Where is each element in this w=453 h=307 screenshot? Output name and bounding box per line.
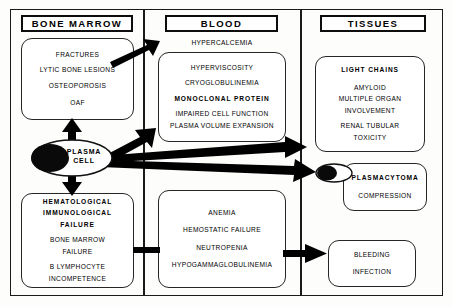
hemato-line-bm: BONE MARROW — [50, 236, 105, 245]
hematological-failure-box: HEMATOLOGICAL IMMUNOLOGICAL FAILURE BONE… — [21, 193, 134, 288]
blood-protein-effects-box: HYPERVISCOSITY CRYOGLOBULINEMIA MONOCLON… — [158, 52, 286, 142]
bone-marrow-line-oaf: OAF — [70, 99, 85, 108]
cytopenia-line-hypogamma: HYPOGAMMAGLOBULINEMIA — [172, 261, 272, 270]
column-header-blood: BLOOD — [165, 15, 278, 32]
blood-line-hyperviscosity: HYPERVISCOSITY — [191, 64, 254, 73]
cytopenia-line-anemia: ANEMIA — [208, 209, 235, 218]
hemato-line-bm-failure: FAILURE — [63, 248, 93, 257]
cytopenia-line-neutropenia: NEUTROPENIA — [196, 244, 247, 253]
hemato-line-blympho: B LYMPHOCYTE — [50, 263, 105, 272]
column-header-bone-marrow: BONE MARROW — [21, 15, 133, 32]
blood-line-monoclonal: MONOCLONAL PROTEIN — [174, 95, 269, 104]
hemato-line-hematological: HEMATOLOGICAL — [43, 198, 112, 207]
bone-marrow-line-osteo: OSTEOPOROSIS — [49, 82, 106, 91]
column-divider-blood-tissues — [300, 9, 302, 296]
bone-marrow-line-fractures: FRACTURES — [56, 51, 99, 60]
light-chains-effects-box: LIGHT CHAINS AMYLOID MULTIPLE ORGAN INVO… — [315, 56, 425, 152]
blood-line-volume: PLASMA VOLUME EXPANSION — [170, 122, 274, 131]
bleeding-line-infection: INFECTION — [353, 268, 392, 277]
light-chains-line-multiorgan: MULTIPLE ORGAN — [339, 95, 402, 104]
plasmacytoma-line-compression: COMPRESSION — [358, 192, 411, 201]
blood-line-impaired: IMPAIRED CELL FUNCTION — [175, 110, 268, 119]
blood-cytopenia-box: ANEMIA HEMOSTATIC FAILURE NEUTROPENIA HY… — [158, 190, 286, 288]
column-header-tissues-label: TISSUES — [348, 18, 398, 29]
column-header-bone-marrow-label: BONE MARROW — [32, 18, 122, 29]
bleeding-infection-box: BLEEDING INFECTION — [328, 240, 416, 287]
plasma-cell-label-line2: CELL — [73, 157, 94, 164]
plasma-cell-label-line1: PLASMA — [67, 148, 101, 155]
hemato-line-failure: FAILURE — [60, 221, 95, 230]
light-chains-line-amyloid: AMYLOID — [354, 84, 386, 93]
column-divider-bonemarrow-blood — [143, 9, 145, 296]
bone-marrow-line-lytic: LYTIC BONE LESIONS — [40, 66, 115, 75]
hemato-line-incompetence: INCOMPETENCE — [49, 275, 106, 284]
column-header-blood-label: BLOOD — [201, 18, 242, 29]
plasmacytoma-box: PLASMACYTOMA COMPRESSION — [343, 163, 427, 211]
hypercalcemia-label: HYPERCALCEMIA — [158, 39, 286, 46]
plasma-cell-label: PLASMA CELL — [57, 148, 111, 165]
light-chains-line-toxicity: TOXICITY — [353, 134, 386, 143]
hemato-line-immunological: IMMUNOLOGICAL — [43, 209, 112, 218]
light-chains-line-renal: RENAL TUBULAR — [341, 122, 400, 131]
light-chains-line-involvement: INVOLVEMENT — [345, 107, 396, 116]
light-chains-line-title: LIGHT CHAINS — [341, 66, 399, 75]
bone-marrow-effects-box: FRACTURES LYTIC BONE LESIONS OSTEOPOROSI… — [21, 38, 134, 120]
plasmacytoma-line-title: PLASMACYTOMA — [351, 174, 418, 183]
cytopenia-line-hemostatic: HEMOSTATIC FAILURE — [183, 226, 261, 235]
blood-line-cryoglob: CRYOGLOBULINEMIA — [185, 79, 259, 88]
bleeding-line-bleeding: BLEEDING — [354, 251, 390, 260]
diagram-canvas: BONE MARROW BLOOD TISSUES FRACTURES LYTI… — [0, 0, 453, 307]
column-header-tissues: TISSUES — [320, 15, 426, 32]
